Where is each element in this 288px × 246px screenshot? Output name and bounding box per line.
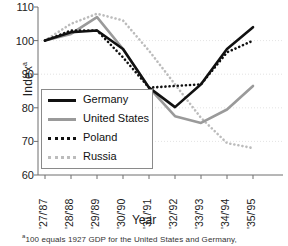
footnote-text: 100 equals 1927 GDP for the United State… [25,235,236,244]
legend-item-united-states[interactable]: United States [42,109,152,128]
chart-figure: Indexa 11010090807060 GermanyUnited Stat… [0,0,288,246]
series-line-poland [45,31,253,88]
legend-label: Germany [83,94,128,105]
legend-item-germany[interactable]: Germany [42,90,152,109]
legend-swatch-icon [48,114,76,124]
legend-label: Poland [83,132,117,143]
x-axis-title: Year [0,213,288,227]
chart-footnote: a100 equals 1927 GDP for the United Stat… [22,233,288,244]
legend-item-russia[interactable]: Russia [42,147,152,166]
legend-item-poland[interactable]: Poland [42,128,152,147]
legend-swatch-icon [48,152,76,162]
legend-swatch-icon [48,95,76,105]
legend-swatch-icon [48,133,76,143]
legend-label: United States [83,113,149,124]
legend: GermanyUnited StatesPolandRussia [41,89,153,169]
legend-label: Russia [83,151,117,162]
